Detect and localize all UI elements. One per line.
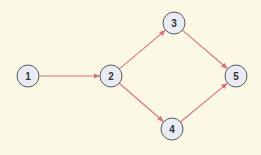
node-label: 2 <box>108 71 114 82</box>
directed-graph: 12345 <box>0 0 261 155</box>
node-1: 1 <box>17 65 39 87</box>
edges-layer <box>39 30 227 122</box>
edge-2-to-3 <box>119 30 165 69</box>
edge-2-to-4 <box>119 83 163 121</box>
node-label: 1 <box>25 71 31 82</box>
node-2: 2 <box>100 65 122 87</box>
edge-4-to-5 <box>180 83 227 122</box>
node-5: 5 <box>225 65 247 87</box>
node-label: 4 <box>169 124 175 135</box>
node-label: 3 <box>171 18 177 29</box>
edge-3-to-5 <box>182 30 227 68</box>
node-3: 3 <box>163 12 185 34</box>
node-4: 4 <box>161 118 183 140</box>
node-label: 5 <box>233 71 239 82</box>
graph-canvas: 12345 <box>0 0 261 155</box>
